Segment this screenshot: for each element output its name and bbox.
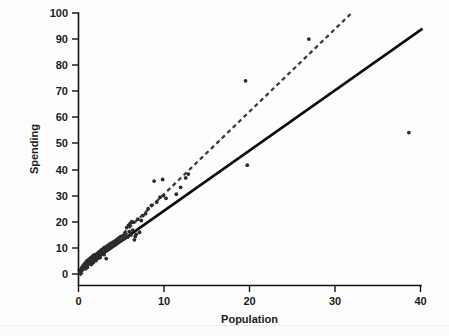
y-tick-label-70: 70: [56, 85, 68, 97]
data-point: [126, 235, 130, 239]
y-tick-label-20: 20: [56, 216, 68, 228]
data-point: [134, 232, 138, 236]
data-point: [164, 196, 168, 200]
x-tick-label-0: 0: [75, 295, 81, 307]
y-tick-label-80: 80: [56, 59, 68, 71]
figure-bottom-edge: [0, 325, 449, 336]
data-point: [102, 253, 106, 257]
y-tick-label-30: 30: [56, 190, 68, 202]
y-tick-label-60: 60: [56, 111, 68, 123]
data-point: [144, 212, 148, 216]
x-tick-label-40: 40: [414, 295, 426, 307]
data-point: [184, 176, 188, 180]
data-point: [152, 179, 156, 183]
data-point: [136, 217, 140, 221]
data-point: [139, 219, 143, 223]
chart-canvas: 100 90 80 70 60 50 40 30 20 10 0 0 10 20…: [0, 0, 449, 336]
data-point: [186, 172, 190, 176]
data-point: [245, 163, 249, 167]
y-tick-label-40: 40: [56, 164, 68, 176]
data-point: [98, 256, 102, 260]
data-point: [129, 233, 133, 237]
data-point: [155, 200, 159, 204]
data-point: [174, 192, 178, 196]
data-point: [158, 195, 162, 199]
y-tick-label-90: 90: [56, 33, 68, 45]
scatter-plot-figure: 100 90 80 70 60 50 40 30 20 10 0 0 10 20…: [0, 0, 449, 336]
data-point: [131, 228, 135, 232]
x-tick-label-10: 10: [158, 295, 170, 307]
data-point: [150, 203, 154, 207]
data-point: [104, 257, 108, 261]
data-point: [146, 207, 150, 211]
y-axis-ticks: [72, 13, 78, 274]
x-axis-tick-labels: 0 10 20 30 40: [75, 295, 426, 307]
data-point: [138, 230, 142, 234]
x-axis-title: Population: [221, 313, 278, 325]
y-axis-title: Spending: [28, 124, 40, 174]
data-point: [179, 185, 183, 189]
data-point: [127, 230, 131, 234]
data-point: [132, 220, 136, 224]
data-point: [244, 79, 248, 83]
y-tick-label-50: 50: [56, 137, 68, 149]
data-point: [307, 37, 311, 41]
data-point: [161, 178, 165, 182]
data-point: [124, 232, 128, 236]
data-point: [133, 238, 137, 242]
y-tick-label-100: 100: [50, 7, 68, 19]
y-tick-label-0: 0: [62, 268, 68, 280]
y-axis-tick-labels: 100 90 80 70 60 50 40 30 20 10 0: [50, 7, 68, 280]
y-tick-label-10: 10: [56, 242, 68, 254]
x-tick-label-30: 30: [329, 295, 341, 307]
data-point: [407, 131, 411, 135]
x-tick-label-20: 20: [243, 295, 255, 307]
